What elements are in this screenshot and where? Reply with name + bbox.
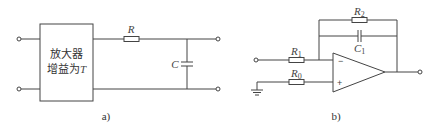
inverting-input-sign: − [338, 56, 343, 66]
circuit-figure: 放大器 增益为 T R C a) R1 [0, 0, 436, 131]
circuit-a: 放大器 增益为 T R C a) [17, 23, 220, 123]
resistor-r-label: R [127, 23, 135, 35]
caption-b: b) [331, 110, 341, 123]
output-terminal [418, 70, 422, 74]
noninverting-input-sign: + [337, 78, 342, 88]
resistor-r1 [289, 58, 304, 63]
capacitor-c1 [358, 30, 361, 42]
amplifier-gain-symbol: T [80, 63, 87, 75]
resistor-r0 [289, 80, 304, 85]
output-terminal-bottom [216, 87, 220, 91]
ground-icon [251, 82, 263, 95]
input-terminal [254, 58, 258, 62]
output-terminal-top [216, 37, 220, 41]
amplifier-label-line1: 放大器 [50, 47, 83, 61]
capacitor-c [181, 39, 193, 89]
circuit-b: R1 R0 − + R2 C1 b [251, 5, 422, 123]
input-terminal-top [17, 37, 21, 41]
resistor-r1-label: R1 [290, 45, 302, 59]
resistor-r [124, 37, 139, 42]
resistor-r2-label: R2 [353, 5, 365, 19]
amplifier-label-line2: 增益为 [47, 62, 80, 76]
resistor-r0-label: R0 [290, 67, 302, 81]
resistor-r2 [352, 18, 367, 23]
capacitor-c-label: C [171, 58, 179, 70]
capacitor-c1-label: C1 [354, 42, 365, 56]
input-terminal-bottom [17, 87, 21, 91]
caption-a: a) [102, 110, 111, 123]
